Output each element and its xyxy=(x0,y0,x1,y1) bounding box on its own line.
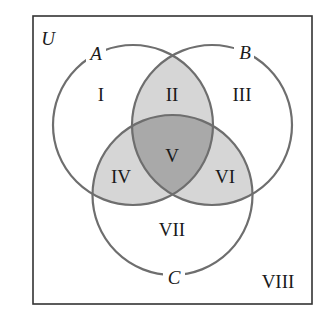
region-label-ii: II xyxy=(166,84,179,105)
region-label-vi: VI xyxy=(215,166,235,187)
region-label-viii: VIII xyxy=(262,271,295,292)
region-label-vii: VII xyxy=(159,219,185,240)
set-label-a: A xyxy=(88,43,102,64)
set-label-b: B xyxy=(239,42,251,63)
region-label-iv: IV xyxy=(111,166,131,187)
universe-label: U xyxy=(41,28,56,49)
region-label-v: V xyxy=(165,145,179,166)
venn-diagram: U A B C I II III IV V VI VII VIII xyxy=(0,0,325,318)
region-label-iii: III xyxy=(233,84,252,105)
set-label-c: C xyxy=(168,267,181,288)
region-label-i: I xyxy=(98,84,104,105)
